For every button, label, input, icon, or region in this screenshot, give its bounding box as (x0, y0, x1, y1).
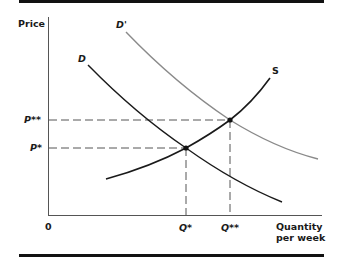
quantity-tick-q-star: Q* (179, 223, 192, 233)
curve-label-d-prime: D' (116, 20, 127, 30)
price-tick-p-star-star: P** (24, 115, 41, 125)
quantity-tick-q-star-star: Q** (221, 223, 239, 233)
x-axis-label-line2: per week (276, 233, 325, 243)
top-rule (19, 0, 324, 3)
x-axis-label-line1: Quantity (276, 222, 323, 232)
curve-label-s: S (272, 66, 279, 76)
bottom-rule (19, 254, 324, 257)
equilibrium-point-1 (183, 145, 188, 150)
y-axis-label: Price (18, 19, 45, 29)
equilibrium-point-2 (227, 117, 232, 122)
price-tick-p-star: P* (30, 143, 42, 153)
demand-curve-shifted (126, 32, 318, 159)
origin-label: 0 (45, 222, 52, 232)
curve-label-d: D (78, 54, 86, 64)
